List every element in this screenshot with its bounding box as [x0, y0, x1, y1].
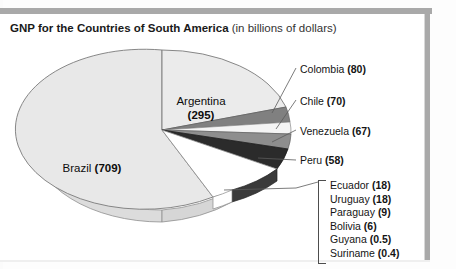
leader-line-small-group-2	[296, 182, 318, 188]
leader-label-peru-value: (58)	[325, 154, 344, 166]
leader-label-peru-name: Peru	[300, 154, 325, 166]
pie-slice-label-brazil: Brazil (709)	[36, 162, 148, 174]
pie-slice-label-brazil-value: (709)	[95, 162, 122, 174]
list-item: Uruguay (18)	[330, 193, 399, 207]
leader-label-venezuela-name: Venezuela	[300, 125, 352, 137]
pie-slice-label-brazil-name: Brazil	[63, 162, 95, 174]
list-item: Bolivia (6)	[330, 220, 399, 234]
pie-slice-label-argentina-name: Argentina	[176, 95, 225, 107]
chart-page: GNP for the Countries of South America (…	[0, 0, 456, 269]
pie-slice-label-argentina-value: (295)	[188, 109, 215, 121]
leader-label-chile-value: (70)	[327, 95, 346, 107]
list-item-name: Paraguay	[330, 206, 378, 218]
list-item-value: (9)	[378, 206, 391, 218]
list-item-value: (18)	[372, 179, 391, 191]
pie-slice-label-argentina: Argentina (295)	[148, 94, 254, 122]
leader-label-colombia: Colombia (80)	[300, 63, 366, 75]
list-item-name: Suriname	[330, 247, 378, 259]
leader-label-colombia-name: Colombia	[300, 63, 347, 75]
leader-label-chile-name: Chile	[300, 95, 327, 107]
leader-label-venezuela: Venezuela (67)	[300, 125, 371, 137]
list-item: Suriname (0.4)	[330, 247, 399, 261]
leader-label-chile: Chile (70)	[300, 95, 346, 107]
list-item: Paraguay (9)	[330, 206, 399, 220]
bracket-shape	[318, 180, 326, 264]
list-item-value: (18)	[373, 193, 392, 205]
list-item-name: Guyana	[330, 233, 370, 245]
list-item-value: (0.5)	[370, 233, 392, 245]
list-item-name: Bolivia	[330, 220, 364, 232]
list-item-value: (6)	[364, 220, 377, 232]
small-countries-list: Ecuador (18) Uruguay (18) Paraguay (9) B…	[330, 179, 399, 261]
list-item: Ecuador (18)	[330, 179, 399, 193]
leader-label-colombia-value: (80)	[347, 63, 366, 75]
small-countries-callout: Ecuador (18) Uruguay (18) Paraguay (9) B…	[318, 180, 422, 262]
leader-label-peru: Peru (58)	[300, 154, 344, 166]
list-item-value: (0.4)	[378, 247, 400, 259]
list-item-name: Uruguay	[330, 193, 373, 205]
leader-label-venezuela-value: (67)	[352, 125, 371, 137]
list-item-name: Ecuador	[330, 179, 372, 191]
list-item: Guyana (0.5)	[330, 233, 399, 247]
